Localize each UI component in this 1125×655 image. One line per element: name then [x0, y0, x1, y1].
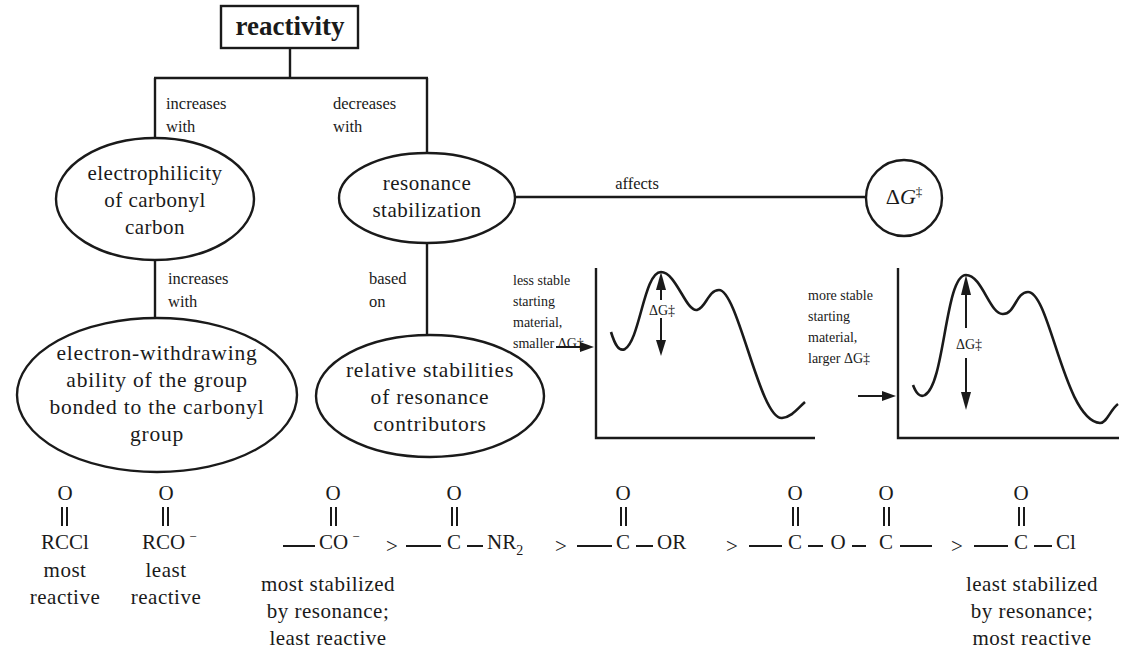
caption-line: starting	[513, 291, 584, 312]
caption-line: material,	[513, 312, 584, 333]
right-barrier-label: ΔG‡	[956, 334, 982, 355]
node-electron-withdrawing: electron-withdrawing ability of the grou…	[49, 340, 264, 448]
series-4-oxygen-1: O	[787, 483, 802, 504]
node-line: electron-withdrawing	[49, 340, 264, 367]
left-energy-curve	[611, 272, 805, 418]
edge-label-line: with	[166, 115, 226, 138]
series-separator-2: >	[555, 536, 567, 557]
rco-text: RCO	[142, 530, 185, 554]
edge-label-based-on: based on	[369, 267, 407, 313]
node-relative-stabilities: relative stabilities of resonance contri…	[346, 357, 514, 438]
node-line: carbon	[87, 214, 222, 241]
series-5-oxygen: O	[1013, 483, 1028, 504]
edge-label-line: increases	[166, 92, 226, 115]
caption-line: larger ΔG‡	[808, 348, 873, 369]
edge-label-line: with	[168, 290, 228, 313]
series-1-formula: CO−	[319, 532, 360, 553]
node-delta-g: ΔG‡	[886, 186, 923, 208]
caption-line: starting	[808, 306, 873, 327]
series-2-carbon: C	[447, 532, 461, 553]
rccl-label: most reactive	[30, 557, 100, 611]
charge: −	[352, 529, 359, 544]
series-4-carbon-2: C	[879, 532, 893, 553]
edge-label-affects: affects	[615, 172, 659, 195]
node-line: group	[49, 421, 264, 448]
label-line: reactive	[131, 584, 201, 611]
node-line: contributors	[346, 411, 514, 438]
caption-line: less stable	[513, 270, 584, 291]
node-electrophilicity: electrophilicity of carbonyl carbon	[87, 160, 222, 241]
edge-label-decreases-with: decreases with	[333, 92, 396, 138]
edge-label-line: decreases	[333, 92, 396, 115]
right-energy-curve	[913, 275, 1118, 423]
rco-label: least reactive	[131, 557, 201, 611]
edge-label-line: increases	[168, 267, 228, 290]
series-5-carbon: C	[1014, 532, 1028, 553]
rccl-oxygen: O	[57, 483, 72, 504]
series-2-oxygen: O	[446, 483, 461, 504]
rco-formula: RCO−	[142, 532, 197, 553]
left-energy-axes	[596, 268, 815, 438]
note-line: by resonance;	[966, 598, 1098, 625]
node-line: of carbonyl	[87, 187, 222, 214]
series-3-suffix: OR	[657, 532, 686, 553]
series-separator-3: >	[726, 536, 738, 557]
subscript: 2	[516, 543, 523, 558]
node-line: of resonance	[346, 384, 514, 411]
formula-text: CO	[319, 530, 348, 554]
series-separator-4: >	[951, 536, 963, 557]
series-4-bridge-oxygen: O	[830, 532, 845, 553]
series-left-note: most stabilized by resonance; least reac…	[261, 571, 395, 652]
caption-line: smaller ΔG‡	[513, 333, 584, 354]
label-line: reactive	[30, 584, 100, 611]
edge-label-increases-with: increases with	[166, 92, 226, 138]
series-separator-1: >	[386, 536, 398, 557]
edge-label-increases-with-2: increases with	[168, 267, 228, 313]
node-line: bonded to the carbonyl	[49, 394, 264, 421]
series-2-suffix: NR2	[487, 532, 523, 553]
caption-line: more stable	[808, 285, 873, 306]
g-symbol: G	[900, 184, 916, 209]
node-line: relative stabilities	[346, 357, 514, 384]
series-3-carbon: C	[616, 532, 630, 553]
note-line: least reactive	[261, 625, 395, 652]
rco-charge: −	[189, 529, 196, 544]
series-1-oxygen: O	[325, 483, 340, 504]
series-4-oxygen-2: O	[878, 483, 893, 504]
suffix-text: NR	[487, 530, 516, 554]
right-energy-axes	[898, 268, 1119, 438]
rco-oxygen: O	[158, 483, 173, 504]
series-4-carbon-1: C	[788, 532, 802, 553]
left-diagram-caption: less stable starting material, smaller Δ…	[513, 270, 584, 354]
node-line: ability of the group	[49, 367, 264, 394]
series-5-suffix: Cl	[1056, 532, 1076, 553]
series-3-oxygen: O	[615, 483, 630, 504]
node-line: electrophilicity	[87, 160, 222, 187]
title-reactivity: reactivity	[236, 13, 345, 40]
note-line: most reactive	[966, 625, 1098, 652]
edge-label-line: on	[369, 290, 407, 313]
node-line: stabilization	[372, 197, 481, 224]
note-line: by resonance;	[261, 598, 395, 625]
edge-label-line: based	[369, 267, 407, 290]
left-barrier-label: ΔG‡	[649, 300, 675, 321]
caption-line: material,	[808, 327, 873, 348]
dagger-symbol: ‡	[916, 184, 923, 199]
rccl-formula: RCCl	[41, 532, 89, 553]
edge-label-line: with	[333, 115, 396, 138]
node-line: resonance	[372, 170, 481, 197]
label-line: most	[30, 557, 100, 584]
node-resonance-stabilization: resonance stabilization	[372, 170, 481, 224]
note-line: least stabilized	[966, 571, 1098, 598]
delta-symbol: Δ	[886, 184, 900, 209]
label-line: least	[131, 557, 201, 584]
note-line: most stabilized	[261, 571, 395, 598]
right-diagram-caption: more stable starting material, larger ΔG…	[808, 285, 873, 369]
series-right-note: least stabilized by resonance; most reac…	[966, 571, 1098, 652]
